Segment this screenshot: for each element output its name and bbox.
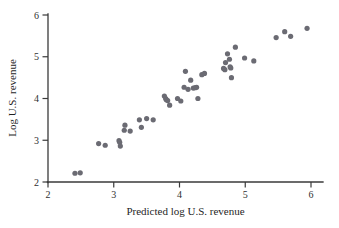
x-tick-label: 6	[309, 189, 314, 200]
x-tick-label: 5	[243, 189, 248, 200]
data-point	[72, 171, 77, 176]
data-point	[202, 71, 207, 76]
data-point	[167, 103, 172, 108]
data-point	[194, 85, 199, 90]
figure-background	[0, 0, 339, 228]
y-axis-title: Log U.S. revenue	[6, 59, 18, 137]
y-tick-label: 2	[34, 177, 39, 188]
scatter-plot-figure: 23456 23456 Predicted log U.S. revenue L…	[0, 0, 339, 228]
data-point	[188, 78, 193, 83]
data-point	[251, 58, 256, 63]
y-tick-label: 4	[34, 93, 39, 104]
data-point	[242, 55, 247, 60]
data-point	[139, 125, 144, 130]
x-tick-label: 4	[177, 189, 182, 200]
data-point	[137, 117, 142, 122]
data-point	[304, 26, 309, 31]
y-tick-label: 5	[34, 51, 39, 62]
data-point	[78, 170, 83, 175]
data-point	[122, 128, 127, 133]
data-point	[103, 143, 108, 148]
data-point	[229, 75, 234, 80]
data-point	[165, 98, 170, 103]
data-point	[223, 60, 228, 65]
data-point	[144, 116, 149, 121]
x-tick-label: 2	[46, 189, 51, 200]
data-point	[288, 34, 293, 39]
data-point	[183, 69, 188, 74]
data-point	[222, 67, 227, 72]
data-point	[178, 98, 183, 103]
data-point	[225, 51, 230, 56]
y-tick-label: 3	[34, 135, 39, 146]
data-point	[227, 57, 232, 62]
data-point	[274, 35, 279, 40]
data-point	[151, 117, 156, 122]
data-point	[228, 65, 233, 70]
data-point	[118, 143, 123, 148]
x-tick-label: 3	[111, 189, 116, 200]
data-point	[128, 128, 133, 133]
x-axis-title: Predicted log U.S. revenue	[126, 205, 244, 217]
data-point	[282, 29, 287, 34]
y-tick-label: 6	[34, 10, 39, 21]
data-point	[185, 87, 190, 92]
data-point	[195, 96, 200, 101]
data-point	[96, 141, 101, 146]
plot-canvas: 23456 23456 Predicted log U.S. revenue L…	[0, 0, 339, 228]
data-point	[233, 45, 238, 50]
data-point	[122, 123, 127, 128]
